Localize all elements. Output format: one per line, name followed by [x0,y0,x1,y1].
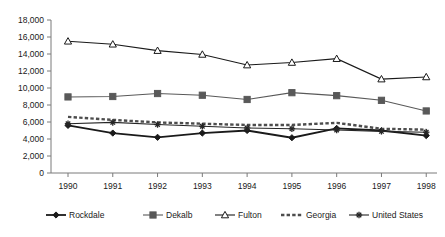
y-tick-label: 16,000 [18,32,44,42]
x-axis: 199019911992199319941995199619971998 [51,173,437,191]
legend-item-dekalb[interactable]: Dekalb [143,210,193,220]
data-point-square [65,94,71,100]
data-point-star [356,212,362,218]
chart-legend: RockdaleDekalbFultonGeorgiaUnited States [46,210,423,220]
y-tick-label: 2,000 [23,151,45,161]
y-tick-label: 12,000 [18,66,44,76]
data-point-square [334,93,340,99]
data-point-square [150,212,156,218]
legend-item-fulton[interactable]: Fulton [215,210,262,220]
y-axis: 02,0004,0006,0008,00010,00012,00014,0001… [18,15,51,178]
x-tick-label: 1997 [372,181,391,191]
x-tick-label: 1991 [103,181,122,191]
chart-canvas: 02,0004,0006,0008,00010,00012,00014,0001… [0,0,445,237]
legend-label: Fulton [238,210,262,220]
data-point-star [289,126,295,132]
series-dekalb [65,90,429,114]
data-point-triangle [333,55,340,61]
data-point-square [378,97,384,103]
data-point-star [110,119,116,125]
legend-item-rockdale[interactable]: Rockdale [46,210,105,220]
legend-item-united-states[interactable]: United States [349,210,423,220]
data-point-diamond [53,212,59,218]
data-point-star [199,123,205,129]
series-line [68,41,426,79]
data-point-square [423,108,429,114]
y-tick-label: 10,000 [18,83,44,93]
line-chart: 02,0004,0006,0008,00010,00012,00014,0001… [0,0,445,237]
x-tick-label: 1990 [59,181,78,191]
data-point-square [154,90,160,96]
data-point-square [110,93,116,99]
data-point-star [154,121,160,127]
data-point-square [289,90,295,96]
y-tick-label: 8,000 [23,100,45,110]
data-point-star [378,128,384,134]
y-tick-label: 18,000 [18,15,44,25]
data-point-diamond [110,130,116,136]
x-tick-label: 1992 [148,181,167,191]
x-tick-label: 1998 [417,181,436,191]
series-layer [64,38,429,141]
legend-label: Dekalb [166,210,193,220]
data-point-square [199,92,205,98]
x-tick-label: 1996 [327,181,346,191]
x-tick-label: 1994 [238,181,257,191]
y-tick-label: 14,000 [18,49,44,59]
x-tick-label: 1993 [193,181,212,191]
legend-label: Rockdale [69,210,105,220]
data-point-diamond [289,135,295,141]
data-point-diamond [199,130,205,136]
y-tick-label: 4,000 [23,134,45,144]
data-point-diamond [154,134,160,140]
data-point-triangle [64,38,71,44]
data-point-square [244,96,250,102]
series-fulton [64,38,429,82]
y-tick-label: 0 [39,168,44,178]
legend-label: Georgia [306,210,337,220]
data-point-star [65,121,71,127]
legend-item-georgia[interactable]: Georgia [281,210,337,220]
x-tick-label: 1995 [282,181,301,191]
y-tick-label: 6,000 [23,117,45,127]
legend-label: United States [372,210,423,220]
